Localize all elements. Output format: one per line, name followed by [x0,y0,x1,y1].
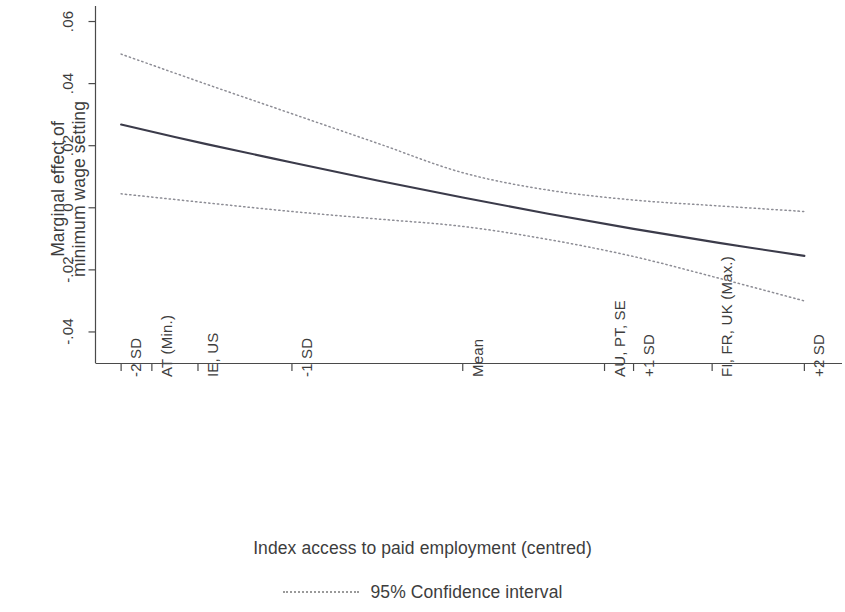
plot-canvas [0,0,845,612]
series-line-marginal-effect [121,125,804,256]
legend-label-confidence-interval: 95% Confidence interval [371,582,563,603]
y-axis-tick-marks [89,22,96,332]
series-line-confidence-interval [121,54,804,211]
data-series-group [121,54,804,301]
marginal-effects-figure: Marginal effect of minimum wage setting … [0,0,845,612]
series-line-confidence-interval [121,194,804,301]
x-axis-title: Index access to paid employment (centred… [0,538,845,559]
chart-legend: 95% Confidence interval [0,582,845,603]
ci-dotted-line-icon [283,591,359,595]
x-axis-tick-marks [121,363,804,371]
